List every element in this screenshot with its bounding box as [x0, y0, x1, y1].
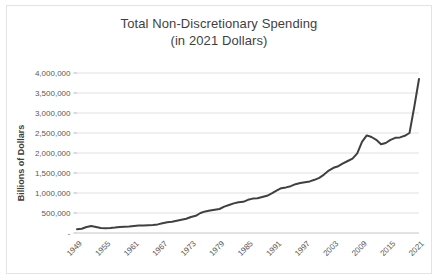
- y-tick-label: -: [68, 229, 71, 238]
- y-tick-label: 3,500,000: [35, 89, 71, 98]
- x-tick-label: 1949: [65, 239, 84, 258]
- x-tick-label: 1991: [264, 239, 283, 258]
- y-tick-label: 2,500,000: [35, 129, 71, 138]
- line-chart-plot: 4,000,0003,500,0003,000,0002,500,0002,00…: [7, 6, 433, 275]
- x-tick-label: 1997: [293, 239, 312, 258]
- x-tick-label: 1955: [93, 239, 112, 258]
- x-tick-label: 1973: [179, 239, 198, 258]
- x-tick-label: 1979: [207, 239, 226, 258]
- x-tick-label: 2015: [378, 239, 397, 258]
- y-tick-label: 4,000,000: [35, 69, 71, 78]
- y-tick-label: 1,000,000: [35, 189, 71, 198]
- x-tick-label: 1961: [122, 239, 141, 258]
- y-tick-label: 500,000: [42, 209, 71, 218]
- x-tick-label: 2009: [350, 239, 369, 258]
- x-tick-label: 2003: [321, 239, 340, 258]
- y-tick-label: 3,000,000: [35, 109, 71, 118]
- y-tick-label: 2,000,000: [35, 149, 71, 158]
- spending-line-series: [77, 79, 419, 229]
- y-tick-label: 1,500,000: [35, 169, 71, 178]
- y-axis-title: Billions of Dollars: [16, 125, 26, 202]
- x-tick-label: 2021: [407, 239, 426, 258]
- x-axis-labels: 1949195519611967197319791985199119972003…: [65, 239, 426, 258]
- x-tick-label: 1985: [236, 239, 255, 258]
- x-tick-label: 1967: [150, 239, 169, 258]
- y-axis-ticks: [74, 73, 78, 233]
- chart-card: Total Non-Discretionary Spending (in 202…: [6, 5, 432, 274]
- y-axis-labels: 4,000,0003,500,0003,000,0002,500,0002,00…: [35, 69, 71, 238]
- gridlines: [77, 73, 419, 233]
